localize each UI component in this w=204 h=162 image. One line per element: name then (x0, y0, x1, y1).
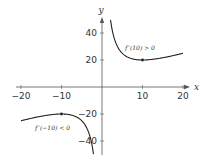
x-axis-arrow-icon (184, 85, 190, 89)
labels: −20−1010204020−20−40xyf′′(10) > 0f′′(−10… (12, 5, 200, 146)
y-tick-label: −40 (78, 136, 97, 146)
y-tick-label: −20 (78, 109, 97, 119)
annotation-positive: f′′(10) > 0 (124, 44, 155, 52)
y-axis-arrow-icon (100, 17, 104, 23)
x-axis-label: x (194, 82, 199, 92)
axes (16, 17, 190, 155)
annotation-negative: f′′(−10) < 0 (34, 124, 70, 132)
x-tick-label: −20 (12, 91, 31, 101)
curve-positive-branch (111, 20, 184, 60)
x-tick-label: 20 (177, 91, 189, 101)
curve-negative-branch (21, 114, 93, 154)
y-tick-label: 40 (86, 28, 98, 38)
chart: −20−1010204020−20−40xyf′′(10) > 0f′′(−10… (0, 0, 204, 162)
y-tick-label: 20 (86, 55, 98, 65)
y-axis-label: y (97, 5, 104, 15)
data-point (141, 59, 144, 62)
x-tick-label: −10 (52, 91, 71, 101)
data-point (60, 113, 63, 116)
x-tick-label: 10 (137, 91, 149, 101)
